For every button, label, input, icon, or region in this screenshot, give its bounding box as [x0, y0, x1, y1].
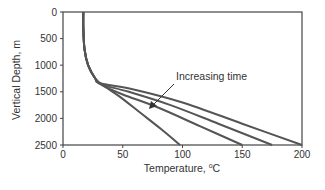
x-tick-label: 200: [294, 149, 311, 160]
series-line-1: [83, 12, 180, 145]
y-tick-label: 2000: [35, 113, 58, 124]
y-tick-label: 2500: [35, 140, 58, 151]
y-tick-label: 500: [40, 33, 57, 44]
x-axis: 050100150200: [60, 145, 311, 160]
y-tick-label: 0: [51, 7, 57, 18]
y-axis: 05001000150020002500: [35, 7, 63, 151]
y-axis-title: Vertical Depth, m: [10, 40, 22, 120]
x-tick-label: 150: [234, 149, 251, 160]
x-tick-label: 0: [60, 149, 66, 160]
chart: 05001000150020002500 050100150200 Increa…: [0, 0, 325, 190]
x-axis-title: Temperature, oC: [144, 162, 221, 174]
annotation-text: Increasing time: [176, 70, 247, 82]
x-tick-label: 100: [174, 149, 191, 160]
y-tick-label: 1500: [35, 86, 58, 97]
x-tick-label: 50: [117, 149, 129, 160]
y-tick-label: 1000: [35, 60, 58, 71]
